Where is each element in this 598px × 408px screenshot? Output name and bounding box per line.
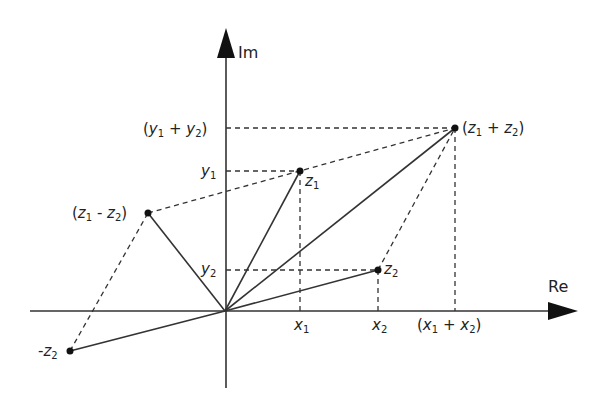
vector-z1 <box>225 171 300 311</box>
point-diff <box>145 210 152 217</box>
point-neg-z2 <box>67 348 74 355</box>
diagram-canvas <box>0 0 598 408</box>
label-z1: z1 <box>305 174 319 191</box>
label-z1-plus-z2: (z1 + z2) <box>462 121 524 138</box>
label-x1: x1 <box>294 318 309 335</box>
vector-sum <box>225 128 455 311</box>
point-z1 <box>297 168 304 175</box>
imag-axis-arrow-icon <box>217 28 235 58</box>
label-y1: y1 <box>201 164 216 181</box>
label-z1-minus-z2: (z1 - z2) <box>72 206 127 223</box>
vector-z2 <box>225 270 378 311</box>
point-sum <box>452 125 459 132</box>
real-axis-label: Re <box>548 279 568 295</box>
vector-neg-z2 <box>70 311 225 351</box>
label-y1-plus-y2: (y1 + y2) <box>143 122 207 139</box>
real-axis-arrow-icon <box>548 302 578 320</box>
label-x1-plus-x2: (x1 + x2) <box>417 318 481 335</box>
dash-z2-to-sum <box>378 128 455 270</box>
label-z2: z2 <box>384 262 398 279</box>
point-z2 <box>375 267 382 274</box>
dash-negz2-to-diff <box>70 213 148 351</box>
label-x2: x2 <box>372 318 387 335</box>
label-neg-z2: -z2 <box>38 344 58 361</box>
imag-axis-label: Im <box>238 45 258 61</box>
label-y2: y2 <box>201 262 216 279</box>
complex-plane-diagram: Im Re (y1 + y2) y1 y2 x1 x2 (x1 + x2) z1… <box>0 0 598 408</box>
